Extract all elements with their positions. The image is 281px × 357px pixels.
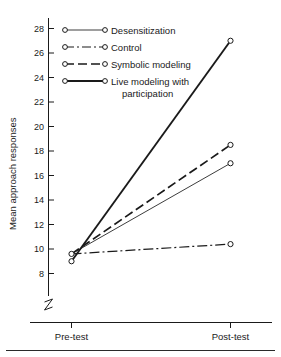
legend-marker-left <box>63 62 68 67</box>
legend-marker-right <box>103 79 108 84</box>
legend-item-live-modeling: Live modeling with participation <box>63 76 190 99</box>
legend-marker-left <box>63 79 68 84</box>
line-chart: 28 26 24 22 20 18 16 14 12 10 8 Mean app… <box>0 0 281 357</box>
series-line-desensitization <box>72 163 231 254</box>
data-point-desensitization-post <box>228 161 233 166</box>
legend-label-live-modeling-line1: Live modeling with <box>111 76 189 87</box>
legend-label-symbolic-modeling: Symbolic modeling <box>111 59 191 70</box>
legend-marker-right <box>103 62 108 67</box>
y-tick-label: 26 <box>34 48 44 58</box>
data-point-control-post <box>228 242 233 247</box>
data-point-live-modeling-post <box>228 38 233 43</box>
footer-divider <box>6 350 275 351</box>
legend-marker-left <box>63 28 68 33</box>
y-tick-label: 16 <box>34 171 44 181</box>
x-category-label-post-test: Post-test <box>212 331 250 342</box>
legend-marker-right <box>103 45 108 50</box>
y-tick-label: 14 <box>34 195 44 205</box>
y-tick-label: 28 <box>34 24 44 34</box>
x-category-label-pre-test: Pre-test <box>55 331 89 342</box>
data-point-symbolic-post <box>228 142 233 147</box>
data-point-symbolic-pre <box>69 251 74 256</box>
y-tick-label: 20 <box>34 122 44 132</box>
legend-item-symbolic-modeling: Symbolic modeling <box>63 59 191 70</box>
y-tick-label: 22 <box>34 97 44 107</box>
legend-item-desensitization: Desensitization <box>63 25 176 36</box>
y-tick-label: 12 <box>34 220 44 230</box>
series-line-live-modeling <box>72 41 231 262</box>
figure-container: 28 26 24 22 20 18 16 14 12 10 8 Mean app… <box>0 0 281 357</box>
y-tick-label: 10 <box>34 244 44 254</box>
y-axis-title: Mean approach responses <box>7 117 18 230</box>
series-line-symbolic-modeling <box>72 145 231 254</box>
legend-marker-left <box>63 45 68 50</box>
legend-label-desensitization: Desensitization <box>111 25 175 36</box>
legend: Desensitization Control Symbolic modelin… <box>63 25 191 99</box>
series-line-control <box>72 244 231 254</box>
y-tick-label: 18 <box>34 146 44 156</box>
y-tick-label: 24 <box>34 73 44 83</box>
y-tick-label: 8 <box>39 269 44 279</box>
legend-item-control: Control <box>63 42 142 53</box>
y-tick-marks <box>49 29 55 274</box>
data-point-live-modeling-pre <box>69 259 74 264</box>
legend-marker-right <box>103 28 108 33</box>
legend-label-live-modeling-line2: participation <box>122 88 173 99</box>
axis-break-icon <box>45 299 53 310</box>
legend-label-control: Control <box>111 42 142 53</box>
